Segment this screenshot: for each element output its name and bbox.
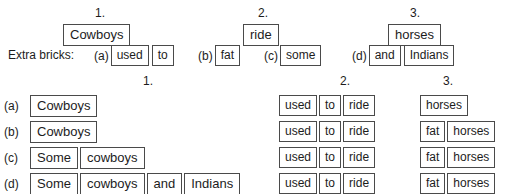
answer-brick[interactable]: ride [343,147,375,168]
table-cell-c-3: fathorses [420,147,495,168]
answer-brick[interactable]: horses [447,121,495,142]
table-cell-c-2: usedtoride [279,147,375,168]
table-row-tag-a: (a) [4,98,19,114]
model-column-number-1: 1. [80,6,120,20]
extra-brick-indians[interactable]: Indians [404,45,455,66]
table-cell-b-1: Cowboys [30,121,97,143]
answer-brick[interactable]: fat [420,121,445,142]
table-cell-c-1: Somecowboys [30,147,145,169]
answer-brick[interactable]: to [319,173,341,194]
answer-brick[interactable]: to [319,147,341,168]
answer-brick[interactable]: fat [420,147,445,168]
table-cell-b-3: fathorses [420,121,495,142]
answer-brick[interactable]: ride [343,95,375,116]
table-cell-b-2: usedtoride [279,121,375,142]
table-cell-d-2: usedtoride [279,173,375,194]
table-row: (d) SomecowboysandIndians usedtoride fat… [0,173,511,194]
extra-brick-to[interactable]: to [152,45,174,66]
extra-group-tag-b: (b) [198,49,213,63]
table-row: (b) Cowboys usedtoride fathorses [0,121,511,145]
answer-brick[interactable]: and [147,173,183,194]
table-row: (c) Somecowboys usedtoride fathorses [0,147,511,171]
answer-brick[interactable]: used [279,173,317,194]
answer-brick[interactable]: horses [447,173,495,194]
answer-brick[interactable]: Cowboys [30,95,97,117]
answer-brick[interactable]: to [319,121,341,142]
answer-brick[interactable]: used [279,121,317,142]
table-cell-d-3: fathorses [420,173,495,194]
extra-bricks-group-d: (d)andIndians [352,45,457,66]
table-column-number-1: 1. [128,74,168,88]
table-cell-a-1: Cowboys [30,95,97,117]
extra-brick-used[interactable]: used [111,45,149,66]
table-row-tag-c: (c) [4,150,18,166]
table-cell-a-2: usedtoride [279,95,375,116]
table-cell-a-3: horses [420,95,468,116]
model-brick-3[interactable]: horses [388,24,441,46]
answer-brick[interactable]: Some [30,173,78,194]
model-brick-2[interactable]: ride [243,24,279,46]
extra-group-tag-c: (c) [264,49,278,63]
extra-group-tag-d: (d) [352,49,367,63]
answer-brick[interactable]: used [279,95,317,116]
model-brick-1[interactable]: Cowboys [63,24,130,46]
answer-brick[interactable]: fat [420,173,445,194]
table-row: (a) Cowboys usedtoride horses [0,95,511,119]
answer-brick[interactable]: horses [420,95,468,116]
answer-brick[interactable]: to [319,95,341,116]
table-column-number-3: 3. [428,74,468,88]
model-column-number-2: 2. [243,6,283,20]
extra-bricks-group-c: (c)some [264,45,324,66]
worksheet-page: 1. 2. 3. Cowboys ride horses Extra brick… [0,0,511,194]
table-column-number-2: 2. [325,74,365,88]
model-column-number-3: 3. [395,6,435,20]
answer-brick[interactable]: Some [30,147,78,169]
answer-brick[interactable]: used [279,147,317,168]
answer-brick[interactable]: cowboys [80,147,145,169]
answer-brick[interactable]: ride [343,121,375,142]
extra-bricks-label: Extra bricks: [8,47,74,63]
extra-bricks-row: Extra bricks: (a)usedto (b)fat (c)some (… [0,45,511,65]
answer-brick[interactable]: Cowboys [30,121,97,143]
extra-brick-fat[interactable]: fat [215,45,240,66]
table-row-tag-b: (b) [4,124,19,140]
extra-bricks-group-a: (a)usedto [94,45,177,66]
answer-brick[interactable]: horses [447,147,495,168]
extra-brick-and[interactable]: and [369,45,401,66]
answer-brick[interactable]: cowboys [80,173,145,194]
answer-table: 1. 2. 3. (a) Cowboys usedtoride horses (… [0,74,511,194]
extra-group-tag-a: (a) [94,49,109,63]
answer-brick[interactable]: Indians [184,173,240,194]
answer-brick[interactable]: ride [343,173,375,194]
extra-bricks-group-b: (b)fat [198,45,243,66]
table-row-tag-d: (d) [4,176,19,192]
extra-brick-some[interactable]: some [280,45,321,66]
table-cell-d-1: SomecowboysandIndians [30,173,240,194]
